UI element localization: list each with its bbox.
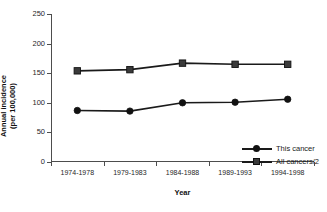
data-point-marker bbox=[179, 100, 185, 106]
legend-item-this-cancer: This cancer bbox=[242, 142, 327, 155]
legend-label-this-cancer: This cancer bbox=[276, 144, 315, 153]
data-point-marker bbox=[74, 107, 80, 113]
x-axis-title: Year bbox=[51, 188, 314, 197]
y-tick-label: 200 bbox=[32, 40, 45, 48]
x-tick-mark bbox=[51, 162, 52, 166]
y-tick-label: 250 bbox=[32, 10, 45, 18]
y-tick-label: 50 bbox=[37, 129, 45, 137]
x-tick-label: 1984-1988 bbox=[166, 169, 199, 176]
x-tick-mark bbox=[209, 162, 210, 166]
legend-label-all-cancers: All cancers/2 bbox=[276, 157, 319, 166]
data-point-marker bbox=[179, 60, 185, 66]
series-plot bbox=[51, 14, 314, 162]
y-axis-title-line1: Annual incidence bbox=[0, 52, 8, 160]
legend-item-all-cancers: All cancers/2 bbox=[242, 155, 327, 168]
data-point-marker bbox=[232, 99, 238, 105]
y-tick-label: 100 bbox=[32, 99, 45, 107]
data-point-marker bbox=[74, 68, 80, 74]
x-tick-mark bbox=[104, 162, 105, 166]
plot-area: 050100150200250 1974-19781979-19831984-1… bbox=[51, 14, 314, 162]
y-tick-label: 0 bbox=[41, 158, 45, 166]
x-tick-label: 1994-1998 bbox=[271, 169, 304, 176]
x-tick-label: 1979-1983 bbox=[113, 169, 146, 176]
data-point-marker bbox=[285, 96, 291, 102]
data-point-marker bbox=[127, 108, 133, 114]
legend-marker-circle-icon bbox=[242, 143, 272, 154]
x-tick-label: 1989-1993 bbox=[218, 169, 251, 176]
y-axis-title: Annual incidence (per 100,000) bbox=[0, 52, 17, 160]
data-point-marker bbox=[127, 66, 133, 72]
x-tick-label: 1974-1978 bbox=[61, 169, 94, 176]
data-point-marker bbox=[285, 61, 291, 67]
data-point-marker bbox=[232, 61, 238, 67]
x-tick-mark bbox=[156, 162, 157, 166]
clipped-title-remnant bbox=[0, 0, 327, 2]
y-tick-label: 150 bbox=[32, 69, 45, 77]
legend-marker-square-icon bbox=[242, 156, 272, 167]
chart-legend: This cancer All cancers/2 bbox=[242, 142, 327, 168]
chart-figure: Annual incidence (per 100,000) 050100150… bbox=[0, 0, 327, 212]
y-axis-title-line2: (per 100,000) bbox=[8, 52, 17, 160]
